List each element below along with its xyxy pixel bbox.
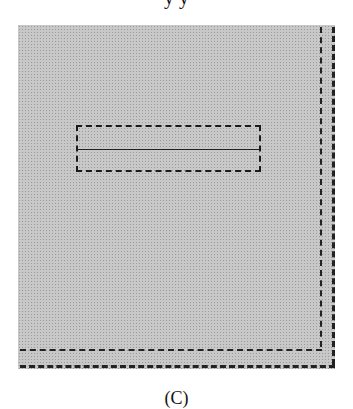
outer-bottom-dashed-border [20,365,335,368]
figure-caption: (C) [0,388,353,409]
inner-right-dashed-border [320,27,322,347]
diagram-panel [18,25,335,369]
rectangle-midline [78,149,259,150]
top-text-fragment: y y [0,0,353,9]
outer-right-dashed-border [332,27,335,365]
divided-rectangle [76,125,261,172]
inner-bottom-dashed-border [20,349,322,351]
